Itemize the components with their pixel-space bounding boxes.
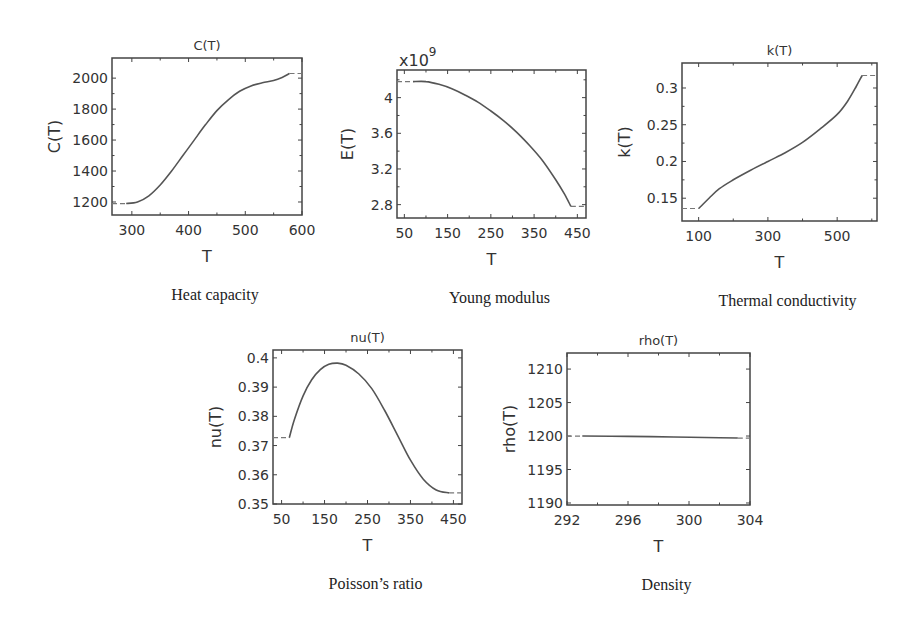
y-tick-label: 0.25 [647, 117, 678, 133]
y-tick-label: 4 [384, 90, 393, 106]
y-tick-label: 1195 [527, 462, 563, 478]
y-tick-label: 0.37 [238, 438, 269, 454]
y-tick-label: 1600 [72, 132, 108, 148]
y-tick-label: 0.2 [656, 153, 678, 169]
y-tick-label: 2.8 [371, 197, 393, 213]
x-axis-label: T [201, 247, 212, 266]
figure-canvas: 30040050060012001400160018002000C(T)TC(T… [0, 0, 915, 620]
y-tick-label: 0.38 [238, 408, 269, 424]
data-curve [289, 363, 449, 493]
x-tick-label: 50 [395, 225, 413, 241]
y-tick-label: 0.35 [238, 496, 269, 512]
plot-frame [682, 63, 877, 221]
x-tick-label: 150 [434, 225, 461, 241]
y-tick-label: 0.3 [656, 80, 678, 96]
x-tick-label: 500 [824, 228, 851, 244]
y-tick-label: 0.39 [238, 379, 269, 395]
y-tick-label: 1400 [72, 163, 108, 179]
x-tick-label: 450 [440, 511, 467, 527]
y-tick-label: 1205 [527, 395, 563, 411]
y-tick-label: 1190 [527, 495, 563, 511]
y-axis-label: k(T) [615, 126, 634, 158]
x-tick-label: 100 [685, 228, 712, 244]
plot-title: k(T) [767, 43, 793, 58]
x-tick-label: 400 [175, 222, 202, 238]
plot-caption: Poisson’s ratio [329, 575, 423, 592]
y-tick-label: 0.4 [247, 350, 269, 366]
x-tick-label: 450 [564, 225, 591, 241]
plot-title: rho(T) [639, 333, 678, 348]
y-tick-label: 3.6 [371, 125, 393, 141]
x-tick-label: 300 [118, 222, 145, 238]
x-tick-label: 150 [311, 511, 338, 527]
data-curve [413, 81, 571, 206]
x-tick-label: 500 [232, 222, 259, 238]
y-axis-label: E(T) [338, 128, 357, 160]
x-tick-label: 350 [521, 225, 548, 241]
y-tick-label: 1200 [72, 194, 108, 210]
y-tick-label: 3.2 [371, 161, 393, 177]
axis-multiplier: x109 [399, 45, 436, 70]
x-tick-label: 600 [289, 222, 316, 238]
y-axis-label: nu(T) [206, 406, 225, 449]
y-tick-label: 0.36 [238, 467, 269, 483]
x-tick-label: 300 [755, 228, 782, 244]
data-curve [582, 436, 738, 438]
plot-density: 29229630030411901195120012051210rho(T)Tr… [500, 333, 764, 594]
y-axis-label: rho(T) [500, 405, 519, 453]
plot-title: nu(T) [350, 330, 385, 345]
data-curve [699, 76, 863, 209]
x-axis-label: T [362, 536, 373, 555]
x-tick-label: 300 [676, 512, 703, 528]
plot-frame [273, 350, 462, 504]
y-axis-label: C(T) [45, 120, 64, 153]
y-tick-label: 0.15 [647, 190, 678, 206]
y-tick-label: 1800 [72, 101, 108, 117]
plot-title: C(T) [193, 38, 220, 53]
x-axis-label: T [653, 537, 664, 556]
plot-frame [567, 353, 750, 505]
x-tick-label: 350 [397, 511, 424, 527]
y-tick-label: 1210 [527, 361, 563, 377]
data-curve [126, 74, 289, 204]
x-tick-label: 304 [737, 512, 764, 528]
plot-frame [397, 70, 586, 218]
x-tick-label: 250 [354, 511, 381, 527]
x-axis-label: T [486, 250, 497, 269]
x-axis-label: T [774, 253, 785, 272]
plot-caption: Young modulus [449, 289, 550, 307]
plot-heat-capacity: 30040050060012001400160018002000C(T)TC(T… [45, 38, 316, 304]
x-tick-label: 292 [554, 512, 581, 528]
plot-caption: Heat capacity [171, 286, 259, 304]
plot-poisson-ratio: 501502503504500.350.360.370.380.390.4nu(… [206, 330, 467, 592]
plot-caption: Density [642, 576, 692, 594]
plot-young-modulus: 501502503504502.83.23.64x109TE(T)Young m… [338, 45, 591, 307]
x-tick-label: 296 [615, 512, 642, 528]
plot-caption: Thermal conductivity [718, 292, 856, 310]
x-tick-label: 50 [273, 511, 291, 527]
x-tick-label: 250 [477, 225, 504, 241]
plot-frame [112, 58, 302, 215]
y-tick-label: 2000 [72, 70, 108, 86]
y-tick-label: 1200 [527, 428, 563, 444]
plot-thermal-conductivity: 1003005000.150.20.250.3k(T)Tk(T)Thermal … [615, 43, 877, 310]
